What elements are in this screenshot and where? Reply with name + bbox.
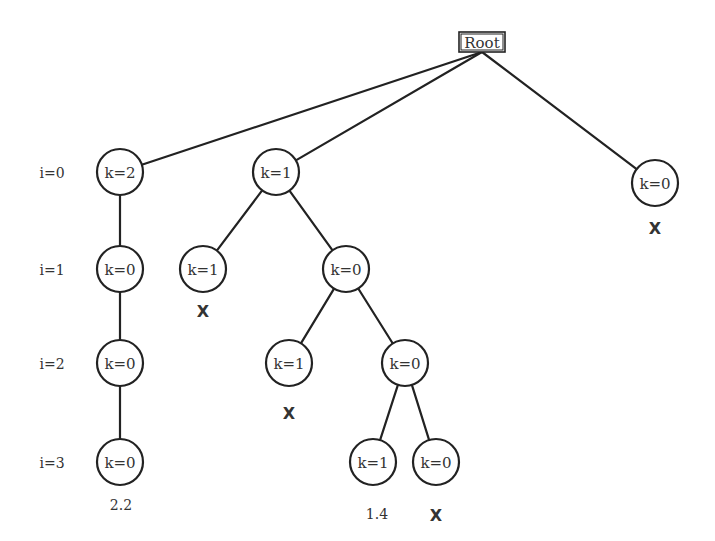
root-label: Root <box>464 34 499 52</box>
level-labels: i=0i=1i=2i=3 <box>39 165 64 471</box>
tree-node: k=1 <box>253 149 299 195</box>
tree-node: k=2 <box>97 149 143 195</box>
edge-root-n0b <box>296 52 482 160</box>
node-label: k=0 <box>389 355 420 373</box>
node-label: k=2 <box>104 164 135 182</box>
leaf-value: 2.2 <box>110 497 132 513</box>
tree-node: k=0 <box>97 340 143 386</box>
tree-node: k=1 <box>266 340 312 386</box>
edge-n1c-n2c <box>358 288 393 343</box>
pruned-marker: X <box>649 219 662 238</box>
tree-node: k=0 <box>382 340 428 386</box>
root-node: Root <box>459 32 505 52</box>
node-label: k=1 <box>357 454 388 472</box>
tree-canvas: Root i=0i=1i=2i=3 k=2k=1k=0k=0k=1k=0k=0k… <box>0 0 715 541</box>
tree-node: k=1 <box>350 439 396 485</box>
search-tree-diagram: Root i=0i=1i=2i=3 k=2k=1k=0k=0k=1k=0k=0k… <box>0 0 715 541</box>
edge-n1c-n2b <box>301 289 334 344</box>
node-label: k=0 <box>420 454 451 472</box>
nodes-layer: k=2k=1k=0k=0k=1k=0k=0k=1k=0k=0k=1k=0 <box>97 149 678 485</box>
pruned-marker: X <box>197 302 210 321</box>
level-label: i=1 <box>39 262 64 278</box>
node-label: k=1 <box>260 164 291 182</box>
pruned-marker: X <box>283 404 296 423</box>
edge-root-n0a <box>142 52 482 165</box>
tree-node: k=1 <box>180 246 226 292</box>
edge-root-n0c <box>482 52 637 169</box>
level-label: i=0 <box>39 165 64 181</box>
node-label: k=1 <box>273 355 304 373</box>
edge-n0b-n1c <box>289 191 332 251</box>
tree-node: k=0 <box>97 246 143 292</box>
node-label: k=1 <box>187 261 218 279</box>
edge-n2c-n3b <box>380 385 398 440</box>
node-label: k=0 <box>104 261 135 279</box>
edge-n0b-n1b <box>217 190 262 250</box>
node-label: k=0 <box>104 454 135 472</box>
level-label: i=2 <box>39 356 64 372</box>
leaf-value: 1.4 <box>366 506 388 522</box>
level-label: i=3 <box>39 455 64 471</box>
tree-node: k=0 <box>413 439 459 485</box>
node-label: k=0 <box>104 355 135 373</box>
tree-node: k=0 <box>632 160 678 206</box>
node-label: k=0 <box>330 261 361 279</box>
node-label: k=0 <box>639 175 670 193</box>
edge-n2c-n3c <box>412 385 429 440</box>
tree-node: k=0 <box>323 246 369 292</box>
pruned-marker: X <box>430 506 443 525</box>
tree-node: k=0 <box>97 439 143 485</box>
